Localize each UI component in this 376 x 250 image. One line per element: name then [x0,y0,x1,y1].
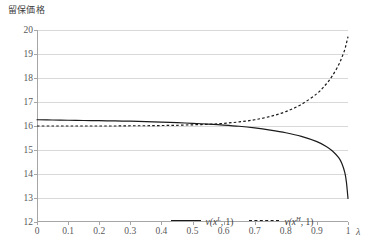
y-axis-tick-labels: 121314151617181920 [0,30,33,222]
x-axis-tick-label: 0 [22,226,52,237]
x-axis-tick-label: 0.7 [240,226,270,237]
x-axis-tick-label: 0.8 [271,226,301,237]
y-axis-title: 留保価格 [8,4,45,16]
x-axis-tick-label: 0.2 [84,226,114,237]
x-axis-tick-label: 0.5 [178,226,208,237]
y-axis-tick-label: 15 [3,145,33,155]
series-lines [37,30,348,222]
x-axis-tickmark [130,222,131,225]
x-axis-title: λ [356,226,360,237]
y-axis-tick-label: 13 [3,193,33,203]
y-axis-tick-label: 20 [3,25,33,35]
x-axis-tick-labels: 00.10.20.30.40.50.60.70.80.91 [37,226,348,240]
y-axis-tick-label: 18 [3,73,33,83]
y-axis-tick-label: 16 [3,121,33,131]
plot-area: v(xL, 1) v(xH, 1) [37,30,348,222]
reservation-price-chart: 留保価格 121314151617181920 v(xL, 1) v(xH, 1… [0,0,376,250]
legend-swatch-dashed-icon [249,217,279,225]
x-axis-tick-label: 0.3 [115,226,145,237]
legend-swatch-solid-icon [171,217,201,225]
x-axis-tickmark [37,222,38,225]
series-line-dashed [37,37,348,126]
x-axis-tickmark [99,222,100,225]
y-axis-tick-label: 14 [3,169,33,179]
x-axis-tick-label: 0.9 [302,226,332,237]
x-axis-tickmark [68,222,69,225]
x-axis-tick-label: 0.1 [53,226,83,237]
series-line-solid [37,120,348,199]
x-axis-tick-label: 0.6 [209,226,239,237]
x-axis-tick-label: 0.4 [146,226,176,237]
x-axis-tickmark [348,222,349,225]
y-axis-tick-label: 17 [3,97,33,107]
y-axis-tick-label: 19 [3,49,33,59]
